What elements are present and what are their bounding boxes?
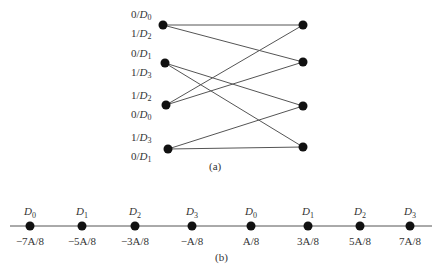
symbol-label: D2: [354, 205, 366, 220]
branch-label: 0/D0: [131, 109, 152, 122]
left-node-3: [162, 101, 171, 110]
symbol-label: D1: [76, 205, 88, 220]
edge-l4-r3: [168, 106, 303, 149]
left-node-4: [164, 145, 173, 154]
edge-l2-r3: [165, 63, 303, 106]
value-label: −3A/8: [121, 235, 149, 247]
edge-l3-r1: [166, 25, 303, 105]
value-label: 7A/8: [399, 235, 421, 247]
edge-l2-r4: [165, 63, 303, 147]
value-label: 5A/8: [349, 235, 371, 247]
left-node-1: [159, 21, 168, 30]
value-label: 3A/8: [297, 235, 319, 247]
value-label: −7A/8: [16, 235, 44, 247]
symbol-label: D3: [404, 205, 416, 220]
value-label: A/8: [243, 235, 260, 247]
edge-l1-r2: [163, 25, 303, 62]
caption-b: (b): [215, 251, 228, 263]
edge-l3-r2: [166, 62, 303, 105]
value-label: −A/8: [181, 235, 204, 247]
trellis-diagram: [0, 0, 442, 271]
branch-label: 1/D3: [131, 67, 152, 80]
symbol-label: D3: [186, 205, 198, 220]
right-node-4: [299, 143, 308, 152]
branch-label: 1/D3: [131, 132, 152, 145]
symbol-label: D1: [302, 205, 314, 220]
branch-label: 0/D0: [131, 9, 152, 22]
symbol-label: D0: [24, 205, 36, 220]
edge-l4-r4: [168, 147, 303, 149]
symbol-label: D2: [129, 205, 141, 220]
trellis-edges: [163, 25, 303, 149]
branch-label: 0/D1: [131, 151, 152, 164]
right-node-1: [299, 21, 308, 30]
branch-label: 0/D1: [131, 48, 152, 61]
branch-label: 1/D2: [131, 28, 152, 41]
right-node-3: [299, 102, 308, 111]
symbol-label: D0: [245, 205, 257, 220]
trellis-nodes: [159, 21, 308, 154]
value-label: −5A/8: [68, 235, 96, 247]
branch-label: 1/D2: [131, 90, 152, 103]
caption-a: (a): [209, 160, 221, 172]
left-node-2: [161, 59, 170, 68]
right-node-2: [299, 58, 308, 67]
